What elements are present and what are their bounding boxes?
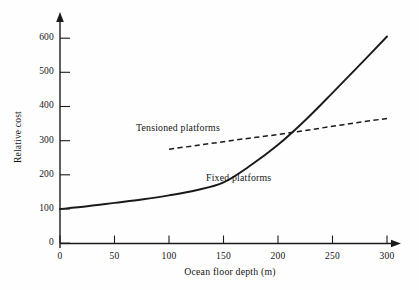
y-axis-ticks (60, 38, 70, 243)
series-label-fixed-platforms: Fixed platforms (206, 172, 271, 183)
y-axis-title: Relative cost (13, 92, 23, 182)
chart-figure: 600 500 400 300 200 100 0 0 50 100 150 2… (0, 0, 419, 290)
x-axis-ticks (60, 236, 387, 244)
y-axis (56, 12, 64, 248)
y-tick-label-500: 500 (24, 67, 54, 77)
x-tick-label-150: 150 (209, 252, 239, 262)
y-tick-label-100: 100 (24, 204, 54, 214)
series-label-tensioned-platforms: Tensioned platforms (136, 122, 220, 133)
x-axis-title: Ocean floor depth (m) (60, 266, 400, 277)
y-tick-label-600: 600 (24, 33, 54, 43)
y-tick-label-400: 400 (24, 101, 54, 111)
y-tick-label-200: 200 (24, 170, 54, 180)
x-tick-label-0: 0 (45, 252, 75, 262)
series-line-fixed-platforms (60, 36, 387, 209)
x-tick-label-200: 200 (263, 252, 293, 262)
chart-plot-area (0, 0, 419, 290)
x-axis (60, 240, 401, 248)
y-tick-label-0: 0 (24, 238, 54, 248)
x-tick-label-100: 100 (154, 252, 184, 262)
x-tick-label-50: 50 (100, 252, 130, 262)
x-tick-label-250: 250 (318, 252, 348, 262)
x-tick-label-300: 300 (372, 252, 402, 262)
y-tick-label-300: 300 (24, 136, 54, 146)
